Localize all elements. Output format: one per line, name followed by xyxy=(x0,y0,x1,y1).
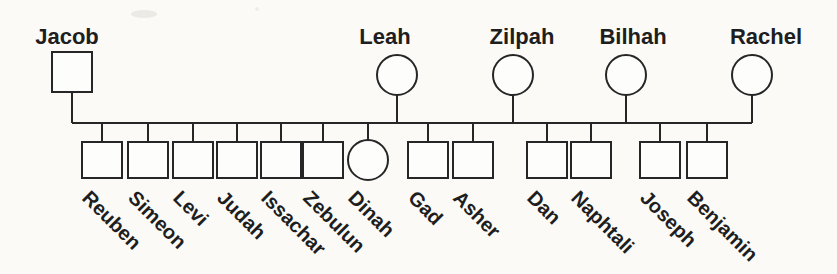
scan-smudge xyxy=(255,7,259,11)
label-zilpah: Zilpah xyxy=(490,24,555,49)
label-bilhah: Bilhah xyxy=(599,24,666,49)
shape-leah-circle xyxy=(377,55,417,95)
shape-jacob-square xyxy=(52,52,92,92)
label-dan: Dan xyxy=(523,186,565,228)
shape-naphtali-square xyxy=(571,142,611,178)
shape-simeon-square xyxy=(128,142,168,178)
shape-rachel-circle xyxy=(732,55,772,95)
label-asher: Asher xyxy=(449,186,505,242)
shape-asher-square xyxy=(453,142,493,178)
label-gad: Gad xyxy=(404,186,447,229)
label-jacob: Jacob xyxy=(35,24,99,49)
tree-lines-and-shapes: JacobLeahZilpahBilhahRachelReubenSimeonL… xyxy=(35,24,802,265)
shape-judah-square xyxy=(217,142,257,178)
shape-benjamin-square xyxy=(687,142,727,178)
label-rachel: Rachel xyxy=(730,24,802,49)
shape-issachar-square xyxy=(261,142,301,178)
family-tree-diagram: JacobLeahZilpahBilhahRachelReubenSimeonL… xyxy=(0,0,837,274)
label-naphtali: Naphtali xyxy=(567,186,638,257)
shape-dan-square xyxy=(527,142,567,178)
family-tree-page: JacobLeahZilpahBilhahRachelReubenSimeonL… xyxy=(0,0,837,274)
scan-smudge xyxy=(131,10,157,18)
shape-reuben-square xyxy=(82,142,122,178)
shape-dinah-circle xyxy=(348,140,388,180)
shape-bilhah-circle xyxy=(606,55,646,95)
shape-levi-square xyxy=(173,142,213,178)
shape-joseph-square xyxy=(640,142,680,178)
label-judah: Judah xyxy=(213,186,270,243)
shape-zilpah-circle xyxy=(493,55,533,95)
label-benjamin: Benjamin xyxy=(683,186,762,265)
shape-zebulun-square xyxy=(303,142,343,178)
shape-gad-square xyxy=(408,142,448,178)
label-leah: Leah xyxy=(359,24,410,49)
